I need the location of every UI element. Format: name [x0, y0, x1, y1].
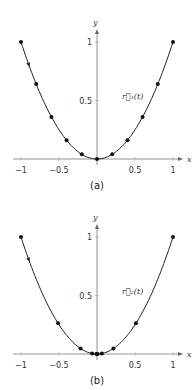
- y-axis-arrow-icon: [95, 224, 99, 229]
- y-tick-label: 1: [87, 38, 92, 47]
- data-point: [19, 40, 23, 44]
- direction-arrow-icon: [26, 62, 30, 67]
- data-point: [100, 352, 104, 356]
- y-tick-label: 0.5: [79, 97, 92, 106]
- data-point: [110, 152, 114, 156]
- y-tick-label: 0.5: [79, 292, 92, 301]
- data-point: [49, 115, 53, 119]
- curve-label: r⃗₂(t): [122, 287, 143, 296]
- data-point: [95, 157, 99, 161]
- data-point: [79, 347, 83, 351]
- data-point: [125, 138, 129, 142]
- plot-b: xy−1−0.50.510.51r⃗₂(t)(b): [0, 195, 195, 390]
- data-point: [90, 352, 94, 356]
- plot-a: xy−1−0.50.510.51r⃗₁(t)(a): [0, 0, 195, 195]
- data-point: [80, 152, 84, 156]
- x-axis-label: x: [187, 155, 192, 164]
- x-tick-label: −1: [15, 166, 27, 175]
- x-tick-label: −1: [15, 361, 27, 370]
- y-axis-label: y: [92, 18, 98, 27]
- data-point: [34, 82, 38, 86]
- y-tick-label: 1: [87, 233, 92, 242]
- data-point: [141, 115, 145, 119]
- data-point: [56, 321, 60, 325]
- direction-arrow-icon: [26, 257, 30, 262]
- caption: (a): [90, 180, 104, 191]
- x-tick-label: 1: [170, 166, 175, 175]
- x-axis-label: x: [187, 350, 192, 359]
- caption: (b): [90, 375, 104, 386]
- data-point: [19, 235, 23, 239]
- data-point: [65, 138, 69, 142]
- y-axis-arrow-icon: [95, 29, 99, 34]
- x-tick-label: −0.5: [49, 166, 68, 175]
- data-point: [111, 347, 115, 351]
- x-tick-label: 0.5: [129, 361, 142, 370]
- data-point: [96, 352, 100, 356]
- x-axis-arrow-icon: [178, 352, 183, 356]
- x-tick-label: 0.5: [129, 166, 142, 175]
- curve-label: r⃗₁(t): [122, 92, 143, 101]
- data-point: [156, 82, 160, 86]
- y-axis-label: y: [92, 213, 98, 222]
- data-point: [171, 40, 175, 44]
- x-axis-arrow-icon: [178, 157, 183, 161]
- data-point: [134, 321, 138, 325]
- x-tick-label: 1: [170, 361, 175, 370]
- data-point: [171, 235, 175, 239]
- x-tick-label: −0.5: [49, 361, 68, 370]
